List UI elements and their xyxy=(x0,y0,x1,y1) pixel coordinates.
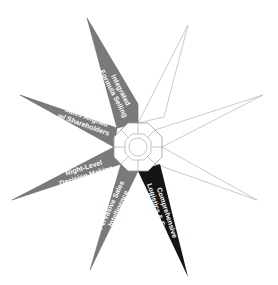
star-point-right-upper xyxy=(155,95,263,147)
star-diagram: Integrated Formula Selling Sales Aligned… xyxy=(0,0,278,285)
star-point-right-lower xyxy=(155,147,257,200)
label-sales-aligned: Sales Aligned w/ Shareholders xyxy=(56,104,113,137)
center-octagon xyxy=(114,123,162,171)
star-point-top-right xyxy=(138,25,188,123)
star-point-top-left xyxy=(87,18,138,128)
